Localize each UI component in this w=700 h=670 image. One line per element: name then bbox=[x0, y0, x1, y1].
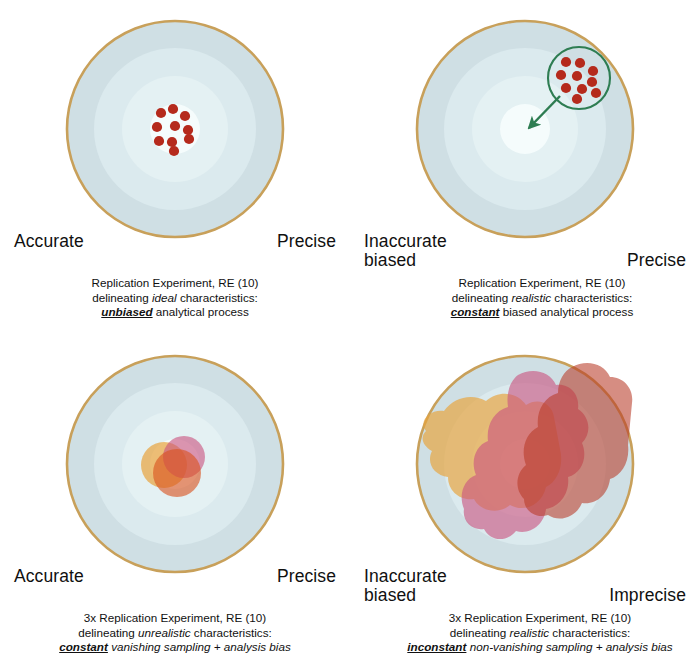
figure-canvas: Accurate Precise Replication Experiment,… bbox=[0, 0, 700, 670]
target-rings-svg bbox=[64, 353, 286, 575]
target-bottom-left bbox=[64, 353, 286, 575]
caption-line-3: inconstant non-vanishing sampling + anal… bbox=[380, 640, 700, 655]
panel-top-left: Accurate Precise Replication Experiment,… bbox=[0, 0, 350, 335]
data-dot bbox=[156, 108, 166, 118]
caption-line-3-post: vanishing sampling + analysis bias bbox=[108, 640, 291, 653]
caption-line-3-key: inconstant bbox=[407, 640, 466, 653]
data-dot bbox=[184, 134, 194, 144]
axis-label-precision: Imprecise bbox=[609, 586, 686, 605]
axis-label-accuracy: Inaccurate biased bbox=[364, 232, 447, 270]
caption-line-3: unbiased analytical process bbox=[0, 305, 350, 320]
data-dot bbox=[587, 77, 597, 87]
caption-line-2-emphasis: realistic bbox=[509, 626, 549, 639]
caption-line-3-key: constant bbox=[59, 640, 108, 653]
caption-line-2-emphasis: unrealistic bbox=[138, 626, 191, 639]
caption-bottom-right: 3x Replication Experiment, RE (10) delin… bbox=[350, 611, 700, 655]
panel-bottom-left: Accurate Precise 3x Replication Experime… bbox=[0, 335, 350, 670]
target-rings-svg bbox=[414, 353, 636, 575]
caption-line-3-key: unbiased bbox=[101, 305, 152, 318]
caption-top-left: Replication Experiment, RE (10) delineat… bbox=[0, 276, 350, 320]
target-top-left bbox=[64, 18, 286, 240]
axis-label-accuracy: Inaccurate biased bbox=[364, 567, 447, 605]
caption-line-3-post: non-vanishing sampling + analysis bias bbox=[466, 640, 672, 653]
caption-line-2-pre: delineating bbox=[92, 291, 152, 304]
caption-line-2-emphasis: realistic bbox=[511, 291, 551, 304]
axis-label-accuracy: Accurate bbox=[14, 567, 84, 586]
data-dot bbox=[169, 146, 179, 156]
caption-line-2: delineating unrealistic characteristics: bbox=[0, 626, 350, 641]
caption-line-3-key: constant bbox=[451, 305, 500, 318]
data-dot bbox=[168, 104, 178, 114]
caption-line-1: 3x Replication Experiment, RE (10) bbox=[380, 611, 700, 626]
caption-line-3-post: analytical process bbox=[153, 305, 249, 318]
bias-blob-red bbox=[153, 449, 201, 497]
data-dot bbox=[575, 58, 585, 68]
target-rings-svg bbox=[414, 18, 636, 240]
data-dot bbox=[588, 66, 598, 76]
panel-bottom-right: Inaccurate biased Imprecise 3x Replicati… bbox=[350, 335, 700, 670]
data-dot bbox=[154, 136, 164, 146]
axis-label-precision: Precise bbox=[277, 567, 336, 586]
caption-bottom-left: 3x Replication Experiment, RE (10) delin… bbox=[0, 611, 350, 655]
data-dot bbox=[572, 94, 582, 104]
data-dot bbox=[577, 84, 587, 94]
caption-line-2-post: characteristics: bbox=[177, 291, 258, 304]
data-dot bbox=[556, 70, 566, 80]
target-top-right bbox=[414, 18, 636, 240]
caption-line-2: delineating ideal characteristics: bbox=[0, 291, 350, 306]
caption-line-2: delineating realistic characteristics: bbox=[380, 626, 700, 641]
caption-line-2-pre: delineating bbox=[452, 291, 512, 304]
data-dot bbox=[561, 57, 571, 67]
target-bullseye bbox=[500, 104, 550, 154]
caption-line-2-post: characteristics: bbox=[551, 291, 632, 304]
caption-line-3: constant vanishing sampling + analysis b… bbox=[0, 640, 350, 655]
axis-label-precision: Precise bbox=[277, 232, 336, 251]
caption-line-3-post: biased analytical process bbox=[499, 305, 633, 318]
caption-line-2-post: characteristics: bbox=[549, 626, 630, 639]
data-dot bbox=[561, 83, 571, 93]
caption-line-2-post: characteristics: bbox=[191, 626, 272, 639]
data-dot bbox=[152, 122, 162, 132]
axis-label-precision: Precise bbox=[627, 251, 686, 270]
caption-line-2-pre: delineating bbox=[78, 626, 138, 639]
axis-labels-bottom-left: Accurate Precise bbox=[0, 567, 350, 609]
caption-line-3: constant biased analytical process bbox=[384, 305, 700, 320]
panel-top-right: Inaccurate biased Precise Replication Ex… bbox=[350, 0, 700, 335]
data-dot bbox=[167, 137, 177, 147]
caption-line-2-emphasis: ideal bbox=[152, 291, 177, 304]
target-rings-svg bbox=[64, 18, 286, 240]
data-dot bbox=[170, 121, 180, 131]
caption-line-2: delineating realistic characteristics: bbox=[384, 291, 700, 306]
data-dot bbox=[591, 88, 601, 98]
data-dot bbox=[180, 111, 190, 121]
caption-line-1: 3x Replication Experiment, RE (10) bbox=[0, 611, 350, 626]
caption-line-1: Replication Experiment, RE (10) bbox=[384, 276, 700, 291]
axis-labels-top-left: Accurate Precise bbox=[0, 232, 350, 274]
caption-line-2-pre: delineating bbox=[450, 626, 510, 639]
axis-labels-bottom-right: Inaccurate biased Imprecise bbox=[350, 567, 700, 609]
caption-line-1: Replication Experiment, RE (10) bbox=[0, 276, 350, 291]
caption-top-right: Replication Experiment, RE (10) delineat… bbox=[350, 276, 700, 320]
data-dot bbox=[183, 125, 193, 135]
axis-label-accuracy: Accurate bbox=[14, 232, 84, 251]
target-bottom-right bbox=[414, 353, 636, 575]
data-dot bbox=[572, 71, 582, 81]
axis-labels-top-right: Inaccurate biased Precise bbox=[350, 232, 700, 274]
